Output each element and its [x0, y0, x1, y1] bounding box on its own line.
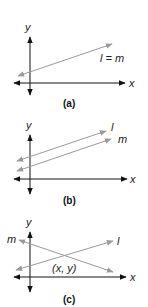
- line-m: [17, 139, 111, 171]
- line-label-m: m: [118, 133, 127, 145]
- panel-b: y x l m (b): [14, 119, 136, 206]
- line-l-equals-m: [18, 44, 112, 76]
- y-axis-label: y: [25, 216, 33, 228]
- y-axis-label: y: [24, 21, 32, 33]
- line-label-l: l: [111, 121, 114, 133]
- line-label: l = m: [100, 52, 124, 64]
- x-axis-label: x: [129, 271, 136, 283]
- panel-caption: (a): [63, 98, 75, 109]
- line-label-m: m: [7, 233, 16, 245]
- x-axis-label: x: [129, 173, 136, 185]
- line-label-l: l: [117, 235, 120, 247]
- x-axis-label: x: [128, 77, 135, 89]
- intersection-label: (x, y): [52, 262, 77, 274]
- panel-caption: (c): [63, 294, 75, 305]
- panel-caption: (b): [63, 195, 76, 206]
- y-axis-label: y: [25, 119, 33, 131]
- panel-a: y x l = m (a): [14, 21, 135, 109]
- panel-c: y x m l (x, y) (c): [7, 216, 136, 305]
- lines-diagram: y x l = m (a) y x l m (b) y x m l (x, y)…: [0, 0, 148, 307]
